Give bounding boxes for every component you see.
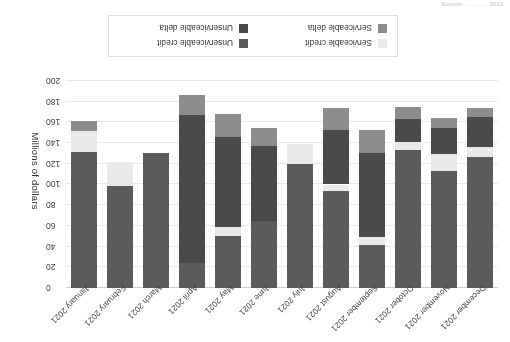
bar-column[interactable] xyxy=(251,128,277,288)
chart-figure: 020406080100120140160180200 Millions of … xyxy=(0,0,510,342)
bar-column[interactable] xyxy=(107,162,133,288)
bar-column[interactable] xyxy=(431,118,457,288)
bar-segment xyxy=(359,130,385,154)
bar-column[interactable] xyxy=(179,96,205,289)
bar-segment xyxy=(359,245,385,288)
bar-column[interactable] xyxy=(143,153,169,288)
bar-segment xyxy=(287,164,313,288)
bar-segment xyxy=(107,186,133,288)
category-label: June 2021 xyxy=(237,283,271,317)
bar-segment xyxy=(251,146,277,221)
legend-item[interactable]: Unserviceable delta xyxy=(119,24,248,34)
bar-segment xyxy=(431,155,457,172)
bar-column[interactable] xyxy=(215,114,241,288)
bar-segment xyxy=(107,162,133,186)
bar-segment xyxy=(359,237,385,244)
bar-segment xyxy=(467,117,493,147)
bar-segment xyxy=(395,142,421,150)
y-axis-tick-label: 0 xyxy=(46,283,51,293)
legend-label: Serviceable credit xyxy=(305,39,372,49)
bar-column[interactable] xyxy=(323,108,349,288)
plot-area xyxy=(66,81,498,288)
y-axis-tick-label: 20 xyxy=(46,262,56,272)
bar-segment xyxy=(395,150,421,288)
legend-swatch-icon xyxy=(239,39,248,48)
bar-segment xyxy=(251,128,277,147)
bar-segment xyxy=(431,171,457,288)
legend-label: Unserviceable credit xyxy=(157,39,233,49)
gridline xyxy=(66,101,498,102)
legend-label: Unserviceable delta xyxy=(159,24,233,34)
y-axis-title: Millions of dollars xyxy=(31,132,42,209)
bar-column[interactable] xyxy=(359,130,385,288)
bar-segment xyxy=(287,144,313,164)
legend-item[interactable]: Serviceable delta xyxy=(258,24,387,34)
legend-label: Serviceable delta xyxy=(308,24,372,34)
bar-segment xyxy=(323,130,349,185)
legend-item[interactable]: Serviceable credit xyxy=(258,39,387,49)
gridline xyxy=(66,80,498,81)
bar-segment xyxy=(323,185,349,191)
bar-segment xyxy=(143,153,169,288)
bar-segment xyxy=(323,108,349,130)
legend-swatch-icon xyxy=(239,24,248,33)
bar-column[interactable] xyxy=(71,121,97,288)
bar-segment xyxy=(71,131,97,153)
bar-segment xyxy=(179,115,205,263)
bar-segment xyxy=(467,147,493,156)
bar-segment xyxy=(251,221,277,288)
bar-segment xyxy=(215,236,241,288)
bar-segment xyxy=(395,119,421,142)
bar-segment xyxy=(215,137,241,227)
bar-column[interactable] xyxy=(467,108,493,288)
bar-segment xyxy=(359,153,385,237)
bar-segment xyxy=(179,96,205,116)
y-axis-tick-label: 180 xyxy=(46,97,60,107)
y-axis-tick-label: 160 xyxy=(46,117,60,127)
y-axis-tick-label: 80 xyxy=(46,200,56,210)
bar-segment xyxy=(71,152,97,288)
bar-segment xyxy=(215,114,241,137)
bar-segment xyxy=(467,157,493,288)
y-axis-tick-label: 120 xyxy=(46,159,60,169)
y-axis-tick-label: 40 xyxy=(46,242,56,252)
legend-swatch-icon xyxy=(378,24,387,33)
y-axis-tick-label: 60 xyxy=(46,221,56,231)
bar-segment xyxy=(71,121,97,130)
bar-segment xyxy=(323,191,349,288)
bar-segment xyxy=(395,107,421,119)
y-axis-tick-label: 140 xyxy=(46,138,60,148)
bar-segment xyxy=(467,108,493,117)
bar-column[interactable] xyxy=(395,107,421,288)
legend-item[interactable]: Unserviceable credit xyxy=(119,39,248,49)
y-axis-tick-label: 100 xyxy=(46,180,60,190)
bar-segment xyxy=(431,118,457,127)
bar-column[interactable] xyxy=(287,144,313,288)
legend-swatch-icon xyxy=(378,39,387,48)
category-label: March 2021 xyxy=(126,283,164,321)
bar-segment xyxy=(431,128,457,155)
chart-legend: Serviceable creditUnserviceable creditSe… xyxy=(108,15,398,57)
y-axis-tick-label: 200 xyxy=(46,76,60,86)
bar-segment xyxy=(215,227,241,236)
